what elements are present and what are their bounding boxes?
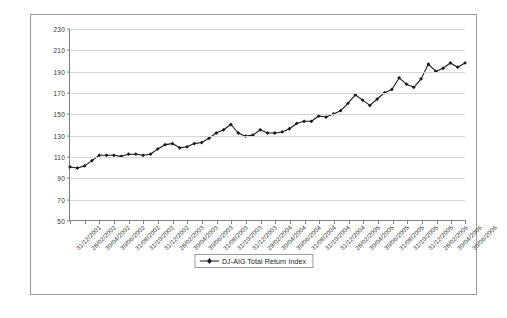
gridline-y-90: [70, 178, 465, 179]
gridline-y-170: [70, 93, 465, 94]
gridline-y-230: [70, 29, 465, 30]
y-tick-label: 110: [54, 154, 65, 161]
gridline-y-70: [70, 200, 465, 201]
legend-line-marker-icon: [199, 257, 219, 265]
y-tick-label: 130: [54, 132, 65, 139]
x-tick-mark: [465, 220, 466, 224]
chart-legend: DJ-AIG Total Return Index: [194, 254, 313, 268]
y-tick-label: 170: [54, 90, 65, 97]
legend-label: DJ-AIG Total Return Index: [222, 258, 306, 265]
gridline-y-210: [70, 50, 465, 51]
y-tick-mark: [67, 135, 70, 136]
y-tick-label: 150: [54, 111, 65, 118]
y-tick-mark: [67, 29, 70, 30]
y-tick-label: 230: [54, 26, 65, 33]
y-tick-label: 70: [57, 196, 65, 203]
y-tick-label: 190: [54, 68, 65, 75]
y-tick-mark: [67, 199, 70, 200]
y-tick-label: 90: [57, 175, 65, 182]
y-tick-mark: [67, 178, 70, 179]
x-axis-labels: 31/12/200128/02/200230/04/200230/06/2002…: [69, 221, 465, 281]
gridline-y-190: [70, 72, 465, 73]
plot-area: 507090110130150170190210230: [69, 29, 465, 221]
series-line-dj-aig: [70, 29, 465, 220]
plot-wrapper: 507090110130150170190210230 31/12/200128…: [31, 15, 476, 294]
y-tick-label: 50: [57, 218, 65, 225]
y-tick-mark: [67, 50, 70, 51]
gridline-y-130: [70, 136, 465, 137]
y-tick-mark: [67, 157, 70, 158]
y-tick-mark: [67, 93, 70, 94]
gridline-y-110: [70, 157, 465, 158]
chart-frame: 507090110130150170190210230 31/12/200128…: [30, 14, 477, 295]
y-tick-mark: [67, 71, 70, 72]
y-tick-label: 210: [54, 47, 65, 54]
gridline-y-150: [70, 114, 465, 115]
y-tick-mark: [67, 114, 70, 115]
